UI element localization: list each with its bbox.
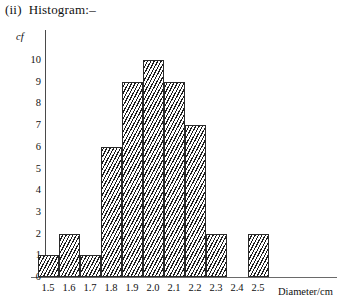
histogram-bar	[143, 60, 164, 277]
y-tick-label: 8	[7, 98, 41, 109]
y-tick-label: 10	[7, 55, 41, 66]
x-tick-label: 2.5	[243, 283, 273, 294]
histogram-bar	[185, 125, 206, 277]
histogram-bar	[101, 147, 122, 277]
x-axis-line	[31, 277, 337, 278]
histogram-bar	[248, 234, 269, 277]
x-axis-title: Diameter/cm	[278, 286, 333, 297]
y-tick-label: 6	[7, 142, 41, 153]
y-tick-label: 5	[7, 163, 41, 174]
histogram-chart: cf 012345678910 1.51.61.71.81.92.02.12.2…	[0, 0, 342, 308]
histogram-bar	[80, 255, 101, 277]
y-tick-label: 7	[7, 120, 41, 131]
histogram-bar	[164, 82, 185, 277]
histogram-bar	[122, 82, 143, 277]
histogram-bar	[206, 234, 227, 277]
y-tick-label: 0	[7, 272, 41, 283]
y-tick-label: 2	[7, 228, 41, 239]
y-axis-line	[45, 30, 46, 278]
histogram-bar	[38, 255, 59, 277]
y-tick-label: 9	[7, 76, 41, 87]
y-tick-label: 1	[7, 250, 41, 261]
y-axis-tick-labels: 012345678910	[0, 0, 41, 308]
histogram-bar	[59, 234, 80, 277]
y-tick-label: 3	[7, 207, 41, 218]
y-tick-label: 4	[7, 185, 41, 196]
